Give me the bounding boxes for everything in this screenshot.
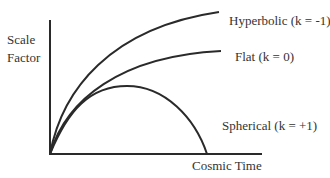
y-axis-label-line2: Factor [7, 50, 41, 65]
hyperbolic-curve [50, 12, 219, 154]
flat-curve [50, 51, 221, 154]
x-axis-label: Cosmic Time [192, 158, 262, 173]
scale-factor-diagram: Scale Factor Cosmic Time Hyperbolic (k =… [0, 0, 330, 178]
hyperbolic-label: Hyperbolic (k = -1) [229, 13, 330, 28]
spherical-label: Spherical (k = +1) [222, 118, 317, 133]
flat-label: Flat (k = 0) [235, 49, 294, 64]
spherical-curve [50, 86, 207, 154]
y-axis-label-line1: Scale [7, 32, 35, 47]
